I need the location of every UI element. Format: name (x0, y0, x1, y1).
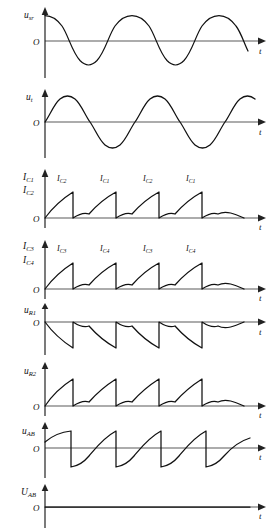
origin-label: O (33, 318, 40, 328)
time-axis-arrow (258, 504, 266, 511)
waveform-curve (45, 431, 250, 467)
panel-u-ab: uAB O t (0, 420, 277, 482)
waveform-curve (45, 16, 248, 66)
value-axis-arrow (42, 7, 49, 15)
plot-u-r2: uR2 O t (0, 358, 277, 420)
time-axis-label: t (259, 46, 262, 56)
origin-label: O (33, 37, 40, 47)
panel-u-sr: usr O t (0, 0, 277, 82)
peak-label: IC4 (99, 244, 110, 254)
value-axis-arrow (42, 240, 49, 248)
value-axis-arrow (42, 484, 49, 491)
time-axis-arrow (258, 445, 266, 452)
peak-label: IC1 (185, 174, 196, 184)
time-axis-label: t (259, 511, 262, 521)
origin-label: O (33, 285, 40, 295)
plot-u-ab: uAB O t (0, 420, 277, 482)
value-axis-arrow (42, 422, 49, 429)
origin-label: O (33, 503, 40, 513)
peak-label: IC2 (56, 174, 67, 184)
time-axis-arrow (258, 403, 266, 410)
value-axis-arrow (42, 303, 49, 309)
time-axis-arrow (258, 119, 266, 126)
time-axis-arrow (258, 319, 266, 326)
peak-label: IC1 (99, 174, 110, 184)
origin-label: O (33, 118, 40, 128)
panel-i-c1-c2: IC1 IC2 O t IC2 IC1 IC2 IC1 (0, 162, 277, 233)
origin-label: O (33, 444, 40, 454)
value-axis-arrow (42, 362, 49, 369)
axis-label-i-c1: IC1 (22, 172, 34, 183)
time-axis-label: t (259, 452, 262, 462)
axis-label-i-c3: IC3 (22, 241, 35, 252)
axis-label-u-t: ut (26, 92, 33, 103)
value-axis-arrow (42, 169, 49, 177)
panel-u-t: ut O t (0, 82, 277, 162)
axis-label-u-r2: uR2 (24, 366, 37, 377)
time-axis-arrow (258, 286, 266, 293)
axis-label-U-ab: UAB (21, 487, 36, 498)
time-axis-arrow (258, 38, 266, 45)
value-axis-arrow (42, 89, 49, 97)
axis-label-i-c4: IC4 (22, 255, 35, 266)
waveform-figure: usr O t ut O t IC1 IC2 O t IC2 (0, 0, 277, 532)
peak-label: IC3 (56, 244, 67, 254)
time-axis-label: t (259, 410, 262, 420)
plot-i-c3-c4: IC3 IC4 O t IC3 IC4 IC3 IC4 (0, 233, 277, 303)
plot-u-t: ut O t (0, 82, 277, 162)
time-axis-label: t (259, 293, 262, 303)
axis-label-u-sr: usr (24, 10, 34, 21)
time-axis-label: t (259, 222, 262, 232)
waveform-curve (45, 322, 244, 348)
origin-label: O (33, 402, 40, 412)
time-axis-arrow (258, 215, 266, 222)
axis-label-u-r1: uR1 (24, 305, 36, 316)
panel-u-r2: uR2 O t (0, 358, 277, 420)
waveform-curve (45, 263, 244, 289)
peak-label: IC2 (142, 174, 153, 184)
waveform-curve (45, 379, 244, 406)
waveform-curve (45, 192, 244, 218)
time-axis-label: t (259, 327, 262, 337)
origin-label: O (33, 214, 40, 224)
plot-u-r1: uR1 O t (0, 303, 277, 358)
peak-label: IC4 (185, 244, 196, 254)
panel-i-c3-c4: IC3 IC4 O t IC3 IC4 IC3 IC4 (0, 233, 277, 303)
axis-label-i-c2: IC2 (22, 185, 35, 196)
panel-u-r1: uR1 O t (0, 303, 277, 358)
plot-u-sr: usr O t (0, 0, 277, 82)
peak-label: IC3 (142, 244, 153, 254)
axis-label-u-ab: uAB (22, 426, 35, 437)
panel-U-ab: UAB O t (0, 482, 277, 532)
time-axis-label: t (259, 127, 262, 137)
plot-i-c1-c2: IC1 IC2 O t IC2 IC1 IC2 IC1 (0, 162, 277, 233)
plot-U-ab: UAB O t (0, 482, 277, 532)
